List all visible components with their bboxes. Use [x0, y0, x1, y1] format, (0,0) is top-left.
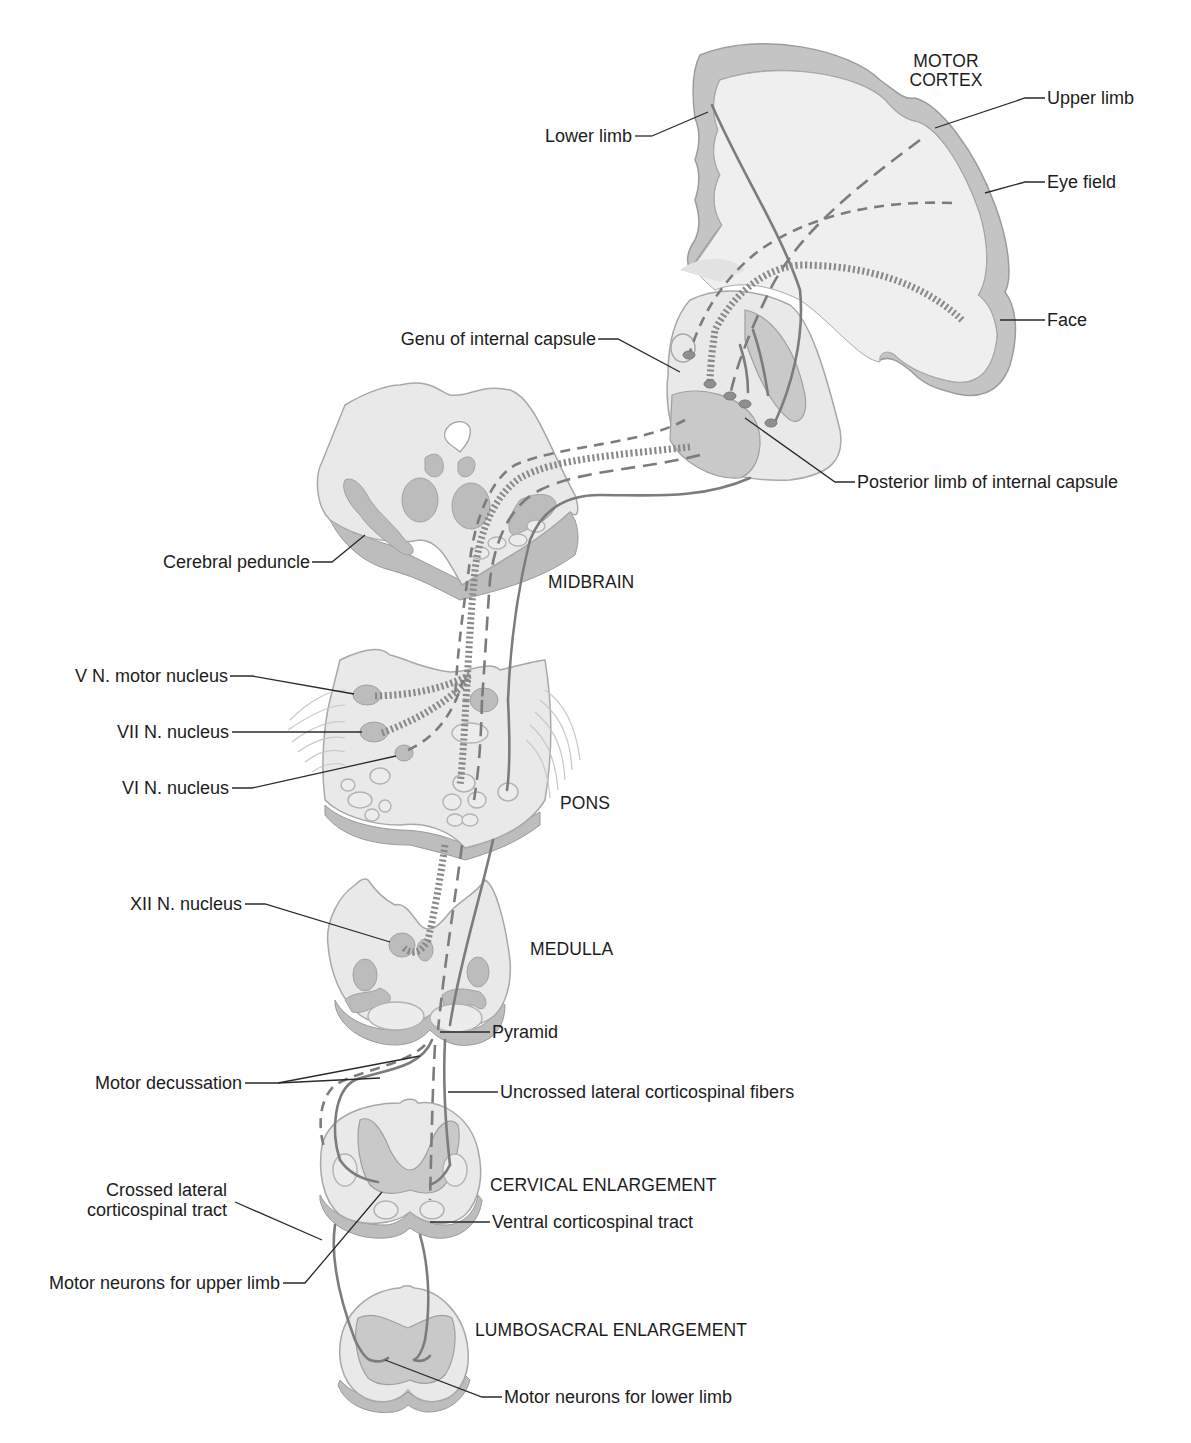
- leader-eye-field: [985, 182, 1045, 193]
- red-nucleus-left: [425, 454, 443, 477]
- label-crossed-tract-line1: Crossed lateral: [0, 1180, 227, 1200]
- cervical-lateral-tract-left: [333, 1154, 357, 1186]
- label-face: Face: [1047, 310, 1087, 330]
- label-lower-limb: Lower limb: [520, 126, 632, 146]
- internal-capsule-section: [667, 291, 841, 480]
- leader-upper-limb: [935, 98, 1045, 128]
- pons-section: [288, 650, 580, 860]
- region-medulla: MEDULLA: [530, 939, 613, 959]
- substantia-nigra-left: [402, 478, 438, 522]
- vi-nucleus-shape: [395, 745, 413, 761]
- cervical-cord-section: [320, 1099, 482, 1238]
- pons-surface: [323, 650, 551, 848]
- pons-bundle: [370, 768, 390, 784]
- pons-bundle: [348, 792, 372, 808]
- label-cerebral-peduncle: Cerebral peduncle: [100, 552, 310, 572]
- lumbosacral-cord-section: [338, 1286, 470, 1413]
- label-vii-nucleus: VII N. nucleus: [0, 722, 229, 742]
- tract-hole-3: [509, 534, 527, 546]
- pons-bundle: [443, 794, 461, 810]
- red-nucleus-right: [458, 457, 475, 477]
- ventral-tract-left: [374, 1201, 398, 1219]
- pons-bundle: [365, 809, 379, 821]
- pyramid-left: [368, 1002, 424, 1030]
- pons-oval: [452, 723, 488, 743]
- label-motor-neurons-upper: Motor neurons for upper limb: [0, 1273, 280, 1293]
- medulla-olive-left-top: [353, 959, 377, 991]
- pons-bundle: [341, 779, 355, 791]
- medulla-olive-right-top: [467, 957, 489, 987]
- capsule-terminal: [704, 380, 716, 388]
- region-motor-cortex: MOTOR CORTEX: [906, 52, 986, 90]
- label-crossed-tract-line2: corticospinal tract: [0, 1200, 227, 1220]
- capsule-terminal: [765, 419, 777, 427]
- label-xii-nucleus: XII N. nucleus: [0, 894, 242, 914]
- label-uncrossed-fibers: Uncrossed lateral corticospinal fibers: [500, 1082, 794, 1102]
- region-cervical-enlargement: CERVICAL ENLARGEMENT: [490, 1175, 717, 1195]
- label-posterior-limb: Posterior limb of internal capsule: [857, 472, 1118, 492]
- region-midbrain: MIDBRAIN: [548, 572, 634, 592]
- label-vi-nucleus: VI N. nucleus: [0, 778, 229, 798]
- label-ventral-tract: Ventral corticospinal tract: [492, 1212, 693, 1232]
- pons-bundle: [453, 774, 475, 792]
- region-lumbosacral-enlargement: LUMBOSACRAL ENLARGEMENT: [475, 1320, 747, 1340]
- label-eye-field: Eye field: [1047, 172, 1116, 192]
- label-v-nucleus: V N. motor nucleus: [0, 666, 228, 686]
- capsule-terminal: [739, 400, 751, 408]
- pons-bundle: [379, 800, 391, 812]
- label-motor-decussation: Motor decussation: [0, 1073, 242, 1093]
- region-pons: PONS: [560, 793, 610, 813]
- pons-bundle: [462, 814, 478, 826]
- label-motor-neurons-lower: Motor neurons for lower limb: [504, 1387, 732, 1407]
- pons-bundle: [447, 814, 463, 826]
- label-upper-limb: Upper limb: [1047, 88, 1134, 108]
- capsule-terminal: [683, 351, 695, 359]
- medulla-section: [328, 879, 511, 1045]
- leader-crossed-tract: [235, 1202, 322, 1240]
- xii-nucleus-shape: [389, 933, 415, 957]
- capsule-terminal: [724, 392, 736, 400]
- ventral-tract-right: [420, 1201, 444, 1219]
- pons-bundle: [468, 792, 486, 808]
- label-genu: Genu of internal capsule: [340, 329, 596, 349]
- pons-nucleus-right: [470, 688, 498, 712]
- label-pyramid: Pyramid: [492, 1022, 558, 1042]
